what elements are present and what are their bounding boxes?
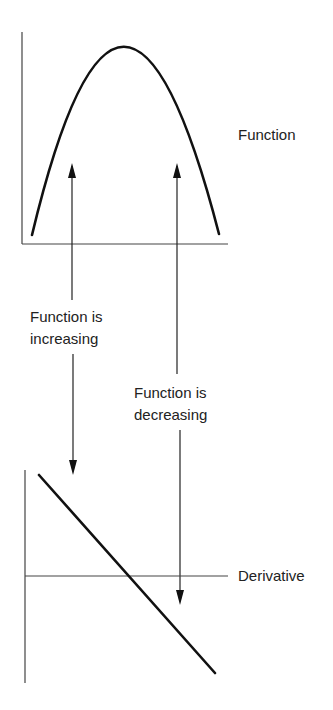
derivative-graph: Derivative (25, 470, 305, 683)
increasing-arrow: Function is increasing (30, 163, 103, 475)
arrow-up-icon (68, 163, 76, 178)
function-label: Function (238, 126, 296, 143)
decreasing-label-2: decreasing (134, 406, 207, 423)
function-derivative-diagram: Function Function is increasing Function… (0, 0, 333, 710)
decreasing-arrow: Function is decreasing (134, 163, 207, 605)
derivative-line (39, 475, 215, 673)
arrow-down-icon (69, 460, 77, 475)
increasing-label-1: Function is (30, 308, 103, 325)
decreasing-label-1: Function is (134, 384, 207, 401)
derivative-label: Derivative (238, 567, 305, 584)
arrow-up-icon (173, 163, 181, 178)
arrow-down-icon (176, 590, 184, 605)
increasing-label-2: increasing (30, 330, 98, 347)
function-graph: Function (22, 32, 296, 244)
function-curve (32, 47, 219, 235)
